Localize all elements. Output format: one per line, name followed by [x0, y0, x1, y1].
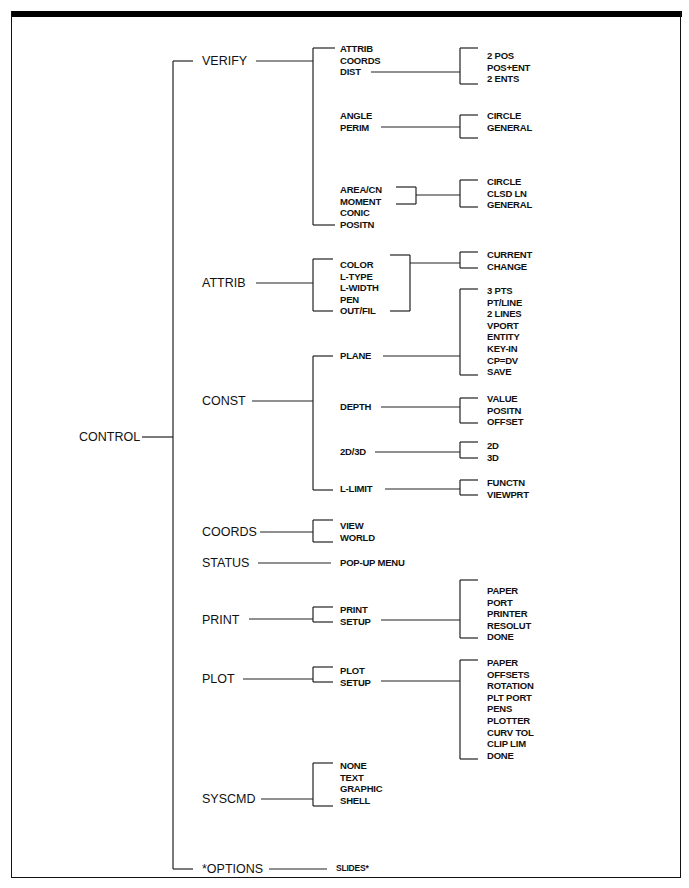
item-setup: SETUP [340, 677, 371, 689]
plot-setup-options: PAPER OFFSETS ROTATION PLT PORT PENS PLO… [487, 657, 534, 761]
item-none: NONE [340, 760, 382, 772]
item-view: VIEW [340, 520, 375, 532]
option-cp-dv: CP=DV [487, 355, 522, 367]
option-resolut: RESOLUT [487, 620, 531, 632]
item-area-cn: AREA/CN [340, 184, 382, 196]
item-l-limit: L-LIMIT [340, 484, 372, 494]
item-graphic: GRAPHIC [340, 783, 382, 795]
item-l-width: L-WIDTH [340, 282, 379, 294]
option-curv-tol: CURV TOL [487, 727, 534, 739]
attrib-options: CURRENT CHANGE [487, 249, 532, 272]
option-clip-lim: CLIP LIM [487, 738, 534, 750]
option-printer: PRINTER [487, 608, 531, 620]
node-verify: VERIFY [202, 55, 247, 68]
depth-options: VALUE POSITN OFFSET [487, 393, 523, 428]
dist-options: 2 POS POS+ENT 2 ENTS [487, 50, 530, 85]
option-offsets: OFFSETS [487, 669, 534, 681]
node-const: CONST [202, 395, 246, 408]
node-syscmd: SYSCMD [202, 793, 255, 806]
option-paper: PAPER [487, 585, 531, 597]
item-out-fil: OUT/FIL [340, 305, 379, 317]
item-attrib: ATTRIB [340, 43, 381, 55]
node-control: CONTROL [79, 431, 140, 444]
option-circle: CIRCLE [487, 110, 532, 122]
option-paper: PAPER [487, 657, 534, 669]
print-items: PRINT SETUP [340, 604, 371, 627]
item-pop-up-menu: POP-UP MENU [340, 558, 405, 568]
option-functn: FUNCTN [487, 477, 529, 489]
option-3d: 3D [487, 452, 499, 464]
option-pt-line: PT/LINE [487, 297, 522, 309]
2d3d-options: 2D 3D [487, 440, 499, 463]
option-done: DONE [487, 750, 534, 762]
node-print: PRINT [202, 614, 240, 627]
item-shell: SHELL [340, 795, 382, 807]
option-offset: OFFSET [487, 416, 523, 428]
option-key-in: KEY-IN [487, 343, 522, 355]
option-viewprt: VIEWPRT [487, 489, 529, 501]
angle-options: CIRCLE GENERAL [487, 110, 532, 133]
node-coords: COORDS [202, 526, 257, 539]
item-text: TEXT [340, 772, 382, 784]
item-setup: SETUP [340, 616, 371, 628]
print-setup-options: PAPER PORT PRINTER RESOLUT DONE [487, 585, 531, 643]
item-conic: CONIC [340, 207, 382, 219]
syscmd-items: NONE TEXT GRAPHIC SHELL [340, 760, 382, 806]
item-coords: COORDS [340, 55, 381, 67]
plot-items: PLOT SETUP [340, 665, 371, 688]
coords-items: VIEW WORLD [340, 520, 375, 543]
node-attrib: ATTRIB [202, 277, 246, 290]
option-2ents: 2 ENTS [487, 73, 530, 85]
option-current: CURRENT [487, 249, 532, 261]
connector-lines [0, 0, 689, 888]
verify-group-dist: ATTRIB COORDS DIST [340, 43, 381, 78]
option-circle: CIRCLE [487, 176, 532, 188]
item-dist: DIST [340, 66, 381, 78]
verify-group-area: AREA/CN MOMENT CONIC POSITN [340, 184, 382, 230]
option-general: GENERAL [487, 199, 532, 211]
option-change: CHANGE [487, 261, 532, 273]
option-pos-ent: POS+ENT [487, 62, 530, 74]
item-depth: DEPTH [340, 402, 371, 412]
option-port: PORT [487, 597, 531, 609]
item-world: WORLD [340, 532, 375, 544]
item-color: COLOR [340, 259, 379, 271]
plane-options: 3 PTS PT/LINE 2 LINES VPORT ENTITY KEY-I… [487, 285, 522, 378]
item-plot: PLOT [340, 665, 371, 677]
node-options: *OPTIONS [202, 863, 263, 876]
option-entity: ENTITY [487, 331, 522, 343]
option-3pts: 3 PTS [487, 285, 522, 297]
option-done: DONE [487, 631, 531, 643]
area-options: CIRCLE CLSD LN GENERAL [487, 176, 532, 211]
item-plane: PLANE [340, 351, 371, 361]
l-limit-options: FUNCTN VIEWPRT [487, 477, 529, 500]
option-plt-port: PLT PORT [487, 692, 534, 704]
option-general: GENERAL [487, 122, 532, 134]
option-value: VALUE [487, 393, 523, 405]
item-angle: ANGLE [340, 110, 372, 122]
item-moment: MOMENT [340, 196, 382, 208]
option-2d: 2D [487, 440, 499, 452]
item-positn: POSITN [340, 219, 382, 231]
item-slides: SLIDES* [336, 864, 369, 873]
node-status: STATUS [202, 557, 249, 570]
item-perim: PERIM [340, 122, 372, 134]
option-positn: POSITN [487, 405, 523, 417]
option-vport: VPORT [487, 320, 522, 332]
option-pens: PENS [487, 703, 534, 715]
item-2d3d: 2D/3D [340, 447, 366, 457]
attrib-items: COLOR L-TYPE L-WIDTH PEN OUT/FIL [340, 259, 379, 317]
option-plotter: PLOTTER [487, 715, 534, 727]
option-save: SAVE [487, 366, 522, 378]
verify-group-angle: ANGLE PERIM [340, 110, 372, 133]
item-l-type: L-TYPE [340, 271, 379, 283]
node-plot: PLOT [202, 673, 235, 686]
item-pen: PEN [340, 294, 379, 306]
item-print: PRINT [340, 604, 371, 616]
option-2lines: 2 LINES [487, 308, 522, 320]
option-clsd-ln: CLSD LN [487, 188, 532, 200]
option-rotation: ROTATION [487, 680, 534, 692]
option-2pos: 2 POS [487, 50, 530, 62]
